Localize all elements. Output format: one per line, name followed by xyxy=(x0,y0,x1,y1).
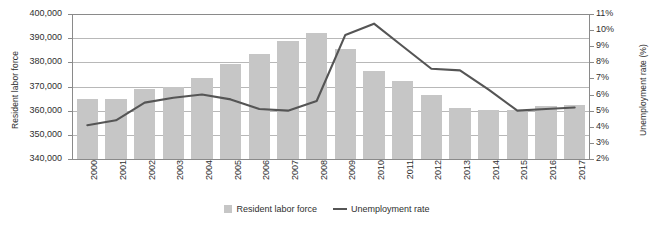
x-axis-tick-label: 2008 xyxy=(320,160,329,180)
x-axis-tick-label: 2012 xyxy=(434,160,443,180)
y-axis-left-tick-label: 340,000 xyxy=(29,154,62,163)
x-axis-tick-label: 2002 xyxy=(148,160,157,180)
y-axis-right-tick xyxy=(589,127,594,128)
y-axis-right-tick xyxy=(589,14,594,15)
legend-item-unemployment-rate: Unemployment rate xyxy=(333,204,430,214)
y-axis-left-tick-label: 360,000 xyxy=(29,106,62,115)
y-axis-right-tick xyxy=(589,62,594,63)
legend-item-resident-labor-force: Resident labor force xyxy=(224,204,317,214)
y-axis-left-tick-label: 380,000 xyxy=(29,57,62,66)
y-axis-right-tick-label: 4% xyxy=(596,122,609,131)
y-axis-left-tick-label: 390,000 xyxy=(29,33,62,42)
legend-label-resident-labor-force: Resident labor force xyxy=(236,204,317,214)
y-axis-right-tick-label: 8% xyxy=(596,57,609,66)
y-axis-left-tick-label: 400,000 xyxy=(29,9,62,18)
x-axis-tick-label: 2001 xyxy=(119,160,128,180)
y-axis-right-tick-label: 3% xyxy=(596,138,609,147)
y-axis-right-tick xyxy=(589,78,594,79)
x-axis-tick-label: 2011 xyxy=(406,160,415,179)
chart-legend: Resident labor force Unemployment rate xyxy=(0,204,654,214)
x-axis-tick-label: 2016 xyxy=(549,160,558,180)
x-axis-tick-label: 2000 xyxy=(90,160,99,180)
bar-swatch-icon xyxy=(224,205,232,213)
y-axis-right-tick-label: 11% xyxy=(596,9,613,18)
y-axis-left-tick-label: 350,000 xyxy=(29,130,62,139)
x-axis-tick-label: 2010 xyxy=(377,160,386,180)
x-axis-tick-label: 2009 xyxy=(348,160,357,180)
y-axis-right-tick-labels: 2%3%4%5%6%7%8%9%10%11% xyxy=(596,0,636,227)
x-axis-tick-label: 2014 xyxy=(492,160,501,180)
y-axis-right-tick-label: 7% xyxy=(596,73,609,82)
x-axis-tick-label: 2013 xyxy=(463,160,472,180)
x-axis-tick-label: 2003 xyxy=(176,160,185,180)
plot-area xyxy=(72,14,590,160)
y-axis-right-tick-label: 6% xyxy=(596,90,609,99)
x-axis-tick-label: 2006 xyxy=(262,160,271,180)
x-axis-tick-label: 2017 xyxy=(578,160,587,180)
y-axis-right-tick-label: 10% xyxy=(596,25,614,34)
y-axis-right-tick xyxy=(589,95,594,96)
y-axis-right-tick xyxy=(589,30,594,31)
labor-force-unemployment-chart: Resident labor force Unemployment rate (… xyxy=(0,0,654,227)
y-axis-right-title: Unemployment rate (%) xyxy=(638,30,648,150)
legend-label-unemployment-rate: Unemployment rate xyxy=(351,204,430,214)
line-series-unemployment-rate xyxy=(73,14,589,159)
line-swatch-icon xyxy=(333,208,347,210)
y-axis-left-tick-labels: 340,000350,000360,000370,000380,000390,0… xyxy=(0,0,68,227)
x-axis-tick-label: 2007 xyxy=(291,160,300,180)
y-axis-right-tick-label: 5% xyxy=(596,106,609,115)
y-axis-right-tick xyxy=(589,111,594,112)
unemployment-rate-polyline xyxy=(87,24,574,126)
y-axis-left-tick-label: 370,000 xyxy=(29,82,62,91)
y-axis-right-tick xyxy=(589,159,594,160)
x-axis-tick-label: 2005 xyxy=(234,160,243,180)
x-axis-tick-label: 2015 xyxy=(520,160,529,180)
x-axis-tick-labels: 2000200120022003200420052006200720082009… xyxy=(72,160,588,202)
y-axis-right-tick xyxy=(589,143,594,144)
y-axis-right-tick xyxy=(589,46,594,47)
y-axis-right-tick-label: 9% xyxy=(596,41,609,50)
x-axis-tick-label: 2004 xyxy=(205,160,214,180)
y-axis-right-tick-label: 2% xyxy=(596,154,609,163)
